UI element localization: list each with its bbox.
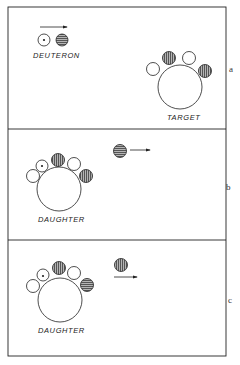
nucleon-open-circle-icon [183,52,196,65]
nucleon-vhatch-circle-icon [52,154,65,167]
nucleon-hhatch-circle-icon [81,279,94,292]
panel-letter-b: b [226,182,231,192]
daughter-label: DAUGHTER [38,215,85,224]
nucleon-open-circle-icon [68,267,81,280]
nucleon-open-circle-icon [27,280,40,293]
emitted-hhatch-particle-icon [114,145,127,158]
nucleon-open-circle-icon [147,63,160,76]
nucleon-open-circle-icon [27,170,40,183]
panel-letter-c: c [228,295,232,305]
nucleon-open-circle-icon [68,158,81,171]
target-label: TARGET [167,113,201,122]
daughter-nucleus [27,262,94,323]
nucleon-vhatch-circle-icon [80,170,93,183]
neutron-hatched-circle-icon [56,34,68,46]
panel-a: DEUTERON TARGET a [33,27,233,122]
nucleon-vhatch-circle-icon [53,262,66,275]
panel-letter-a: a [229,64,233,74]
nucleus-circle-icon [37,167,81,211]
target-nucleus [147,52,212,110]
nucleon-vhatch-circle-icon [199,65,212,78]
nucleon-vhatch-circle-icon [163,52,176,65]
panel-c: DAUGHTER c [27,259,233,336]
nucleus-circle-icon [38,278,82,322]
panel-b: DAUGHTER b [27,145,232,225]
deuteron-label: DEUTERON [33,51,80,60]
deuteron [38,34,68,46]
nucleus-circle-icon [158,65,202,109]
diagram-canvas: DEUTERON TARGET a DAUGHTER b [0,0,240,365]
daughter-nucleus [27,154,93,212]
daughter-label: DAUGHTER [38,326,85,335]
emitted-vhatch-particle-icon [115,259,128,272]
